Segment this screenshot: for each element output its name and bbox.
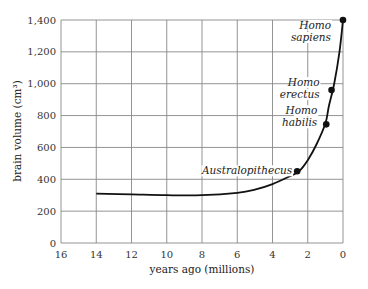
point-annotation: Homo [298,19,331,31]
y-tick-label: 0 [50,238,56,249]
y-axis-label: brain volume (cm³) [11,80,23,182]
x-tick-label: 4 [269,249,275,260]
x-axis-label: years ago (millions) [149,263,255,275]
y-tick-label: 1,200 [27,46,56,57]
y-tick-label: 800 [37,110,56,121]
data-point [323,121,330,128]
point-annotation: Homo [284,104,317,116]
x-tick-label: 0 [340,249,346,260]
data-point [340,17,347,24]
y-tick-label: 600 [37,142,56,153]
x-tick-label: 10 [160,249,173,260]
y-tick-label: 200 [37,206,56,217]
point-annotation: sapiens [291,31,332,43]
x-tick-label: 16 [55,249,68,260]
axes: 161412108642002004006008001,0001,2001,40… [27,15,346,261]
y-tick-label: 400 [37,174,56,185]
data-points: AustralopithecusHomohabilisHomoerectusHo… [201,17,346,177]
x-tick-label: 8 [199,249,205,260]
y-tick-label: 1,400 [27,15,56,26]
point-annotation: Homo [287,76,320,88]
x-tick-label: 14 [90,249,103,260]
x-tick-label: 6 [234,249,240,260]
grid [61,20,343,243]
point-annotation: habilis [282,116,318,128]
x-tick-label: 2 [305,249,311,260]
point-annotation: erectus [280,88,320,100]
data-point [294,168,301,175]
data-point [328,87,335,94]
x-tick-label: 12 [125,249,138,260]
brain-volume-chart: 161412108642002004006008001,0001,2001,40… [0,0,368,289]
y-tick-label: 1,000 [27,78,56,89]
point-annotation: Australopithecus [201,164,293,176]
